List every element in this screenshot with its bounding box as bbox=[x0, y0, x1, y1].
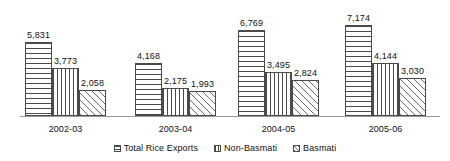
x-axis-label: 2004-05 bbox=[226, 124, 331, 135]
legend-swatch-icon bbox=[114, 145, 121, 152]
bar bbox=[345, 25, 372, 116]
legend-item[interactable]: Total Rice Exports bbox=[114, 143, 198, 154]
bar bbox=[162, 88, 189, 116]
legend-label: Non-Basmati bbox=[224, 143, 277, 154]
bar-value-label: 2,824 bbox=[294, 68, 317, 78]
legend-label: Total Rice Exports bbox=[124, 143, 198, 154]
bar-chart: 5,8313,7732,0584,1682,1751,9936,7693,495… bbox=[0, 0, 450, 161]
bar-value-label: 6,769 bbox=[240, 18, 263, 28]
legend-swatch-icon bbox=[214, 145, 221, 152]
chart-legend: Total Rice ExportsNon-BasmatiBasmati bbox=[0, 143, 450, 154]
bar bbox=[135, 63, 162, 116]
bar bbox=[25, 42, 52, 116]
bar-value-label: 1,993 bbox=[191, 79, 214, 89]
bar-value-label: 7,174 bbox=[347, 13, 370, 23]
legend-swatch-icon bbox=[293, 145, 300, 152]
x-axis-label: 2002-03 bbox=[13, 124, 118, 135]
bar-value-label: 2,175 bbox=[164, 76, 187, 86]
bar bbox=[52, 68, 79, 116]
x-axis-label: 2003-04 bbox=[123, 124, 228, 135]
bar bbox=[238, 30, 265, 116]
bar bbox=[79, 90, 106, 116]
bar bbox=[189, 91, 216, 116]
bar bbox=[292, 80, 319, 116]
bar-value-label: 3,495 bbox=[267, 60, 290, 70]
legend-item[interactable]: Non-Basmati bbox=[214, 143, 277, 154]
bar-value-label: 4,144 bbox=[374, 51, 397, 61]
bar-value-label: 3,030 bbox=[401, 66, 424, 76]
legend-label: Basmati bbox=[303, 143, 336, 154]
bar-value-label: 2,058 bbox=[81, 78, 104, 88]
plot-area: 5,8313,7732,0584,1682,1751,9936,7693,495… bbox=[0, 0, 450, 117]
bar bbox=[372, 63, 399, 116]
bar-value-label: 3,773 bbox=[54, 56, 77, 66]
bar bbox=[265, 72, 292, 116]
bar-value-label: 4,168 bbox=[137, 51, 160, 61]
bar bbox=[399, 78, 426, 116]
legend-item[interactable]: Basmati bbox=[293, 143, 336, 154]
x-axis-label: 2005-06 bbox=[333, 124, 438, 135]
bar-value-label: 5,831 bbox=[27, 30, 50, 40]
x-axis-line bbox=[20, 116, 440, 117]
